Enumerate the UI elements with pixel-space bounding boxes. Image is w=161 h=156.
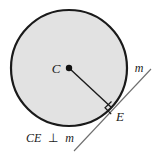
figure-caption: CE ⊥ m xyxy=(26,131,74,145)
caption-line-label: m xyxy=(65,131,74,145)
center-dot xyxy=(66,65,72,71)
label-point-e: E xyxy=(115,109,124,124)
caption-segment-label: CE xyxy=(26,131,42,145)
caption-perp-symbol: ⊥ xyxy=(48,131,58,145)
label-line-m: m xyxy=(135,61,144,75)
label-center-c: C xyxy=(52,61,61,76)
geometry-diagram-canvas: C E m CE ⊥ m xyxy=(0,0,161,156)
geometry-figure: C E m CE ⊥ m xyxy=(0,0,161,156)
